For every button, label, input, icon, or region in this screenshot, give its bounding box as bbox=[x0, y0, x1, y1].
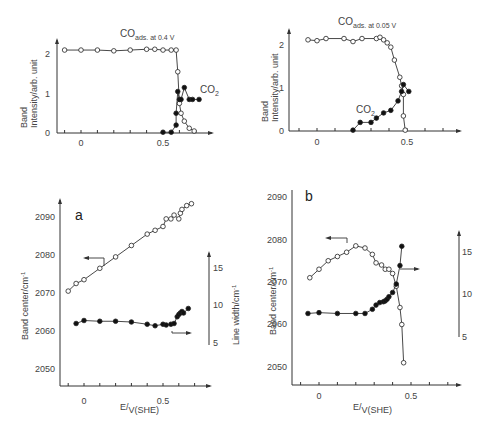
data-point bbox=[390, 290, 395, 295]
panel-label: a bbox=[75, 207, 83, 223]
data-point bbox=[317, 267, 322, 272]
arrow-right-icon bbox=[414, 267, 420, 271]
chart-title: COads. at 0.05 V bbox=[338, 16, 397, 29]
svg-text:Band center/cm-1: Band center/cm-1 bbox=[20, 271, 30, 340]
y-tick: 1 bbox=[45, 89, 50, 99]
data-point bbox=[398, 263, 403, 268]
data-point bbox=[389, 45, 394, 50]
data-point bbox=[399, 89, 404, 94]
data-point bbox=[62, 48, 67, 53]
series-line bbox=[163, 88, 199, 133]
data-point bbox=[179, 111, 184, 116]
y-tick: 0 bbox=[45, 128, 50, 138]
data-point bbox=[401, 360, 406, 365]
chart-top-left: 0 1 2 0 0.5 COads. at 0.4 V CO2 Band Int… bbox=[19, 28, 219, 148]
data-point bbox=[197, 97, 202, 102]
svg-text:Band center/cm-1: Band center/cm-1 bbox=[268, 266, 278, 335]
data-point bbox=[401, 114, 406, 119]
data-point bbox=[389, 108, 394, 113]
co2-label: CO2 bbox=[356, 104, 375, 117]
data-point bbox=[74, 321, 79, 326]
data-point bbox=[308, 275, 313, 280]
data-point bbox=[175, 69, 180, 74]
data-point bbox=[392, 58, 397, 63]
y-axis-arrow-icon bbox=[58, 198, 62, 204]
data-point bbox=[184, 203, 189, 208]
co2-label: CO2 bbox=[200, 84, 219, 97]
x-axis-arrow-icon bbox=[456, 383, 462, 387]
data-point bbox=[129, 243, 134, 248]
data-point bbox=[360, 36, 365, 41]
x-tick: 0.5 bbox=[401, 137, 414, 147]
y-axis-label: Band Intensity/arb. unit bbox=[19, 59, 39, 128]
y2-axis-label: Line width/cm-1 bbox=[231, 284, 241, 345]
data-point bbox=[153, 323, 158, 328]
data-point bbox=[179, 97, 184, 102]
data-point bbox=[335, 254, 340, 259]
data-point bbox=[192, 129, 197, 134]
data-point bbox=[169, 130, 174, 135]
y-tick: 2060 bbox=[35, 326, 55, 336]
panel-label: b bbox=[305, 188, 313, 204]
data-point bbox=[403, 128, 408, 133]
data-point bbox=[317, 310, 322, 315]
data-point bbox=[182, 85, 187, 90]
data-point bbox=[113, 255, 118, 260]
svg-text:Intensity/arb. unit: Intensity/arb. unit bbox=[270, 53, 280, 122]
data-point bbox=[400, 244, 405, 249]
x-axis-arrow-icon bbox=[456, 129, 462, 133]
data-point bbox=[182, 119, 187, 124]
data-point bbox=[398, 75, 403, 80]
data-point bbox=[175, 89, 180, 94]
data-point bbox=[164, 217, 169, 222]
data-point bbox=[326, 258, 331, 263]
data-point bbox=[351, 39, 356, 44]
data-point bbox=[394, 282, 399, 287]
data-point bbox=[79, 48, 84, 53]
y-tick: 2080 bbox=[35, 250, 55, 260]
data-point bbox=[153, 47, 158, 52]
y-axis-label: Band Intensity/arb. unit bbox=[260, 53, 280, 122]
y2-tick: 10 bbox=[462, 289, 472, 299]
data-point bbox=[363, 311, 368, 316]
data-point bbox=[354, 311, 359, 316]
y2-tick: 5 bbox=[213, 338, 218, 348]
x-axis-label: E/V(SHE) bbox=[120, 402, 159, 415]
data-point bbox=[396, 99, 401, 104]
data-point bbox=[164, 323, 169, 328]
data-point bbox=[174, 123, 179, 128]
y-tick: 2090 bbox=[267, 192, 287, 202]
data-point bbox=[66, 289, 71, 294]
data-point bbox=[181, 311, 186, 316]
data-point bbox=[390, 271, 395, 276]
data-point bbox=[335, 311, 340, 316]
data-point bbox=[354, 244, 359, 249]
data-point bbox=[161, 130, 166, 135]
data-point bbox=[342, 36, 347, 41]
data-point bbox=[153, 228, 158, 233]
data-point bbox=[401, 82, 406, 87]
y2-axis-arrow-icon bbox=[457, 230, 461, 236]
data-point bbox=[98, 266, 103, 271]
data-point bbox=[174, 111, 179, 116]
data-point bbox=[363, 246, 368, 251]
data-point bbox=[128, 48, 133, 53]
data-point bbox=[144, 47, 149, 52]
x-tick: 0.5 bbox=[157, 138, 170, 148]
chart-bottom-left: 2050 2060 2070 2080 2090 5 10 15 0 0.5 a… bbox=[20, 198, 241, 415]
y2-tick: 5 bbox=[462, 332, 467, 342]
data-point bbox=[407, 89, 412, 94]
data-point bbox=[358, 120, 363, 125]
chart-top-right: 0 1 2 0 0.5 COads. at 0.05 V CO2 Band In… bbox=[260, 16, 462, 147]
data-point bbox=[398, 305, 403, 310]
data-point bbox=[180, 207, 185, 212]
data-point bbox=[169, 48, 174, 53]
data-point bbox=[112, 49, 117, 54]
data-point bbox=[172, 321, 177, 326]
chart-bottom-right: 2050 2060 2070 2080 2090 5 10 15 0 0.5 b… bbox=[267, 188, 472, 415]
y-axis-arrow-icon bbox=[55, 38, 59, 44]
figure: 0 1 2 0 0.5 COads. at 0.4 V CO2 Band Int… bbox=[0, 0, 483, 434]
data-point bbox=[370, 252, 375, 257]
data-point bbox=[172, 213, 177, 218]
y-axis-label: Band center/cm-1 bbox=[20, 271, 30, 340]
